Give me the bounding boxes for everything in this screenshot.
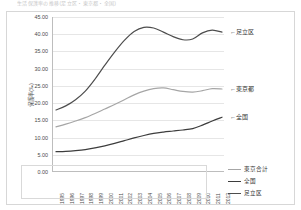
y-axis-title: 保護率(‰) — [26, 69, 36, 121]
y-axis-tick: 25.00 — [16, 82, 48, 90]
y-axis-tick: 40.00 — [16, 30, 48, 38]
legend-label: 全国 — [244, 177, 256, 185]
chart-title-cropped: 生活保護率の推移(足立区・東京都・全国) — [17, 0, 167, 7]
legend-label: 足立区 — [244, 189, 262, 197]
y-axis-tick: 10.00 — [16, 134, 48, 142]
y-axis-tick: 15.00 — [16, 116, 48, 124]
y-axis-tick: 20.00 — [16, 99, 48, 107]
series-line — [56, 88, 222, 127]
series-line — [56, 117, 222, 151]
y-axis-tick: 30.00 — [16, 65, 48, 73]
legend-color-swatch — [228, 181, 241, 182]
legend-row[interactable]: 東京合計 — [228, 163, 290, 175]
legend-inner-box — [21, 165, 207, 199]
series-callout: ←足立区 — [230, 28, 254, 36]
legend-label: 東京合計 — [244, 165, 268, 173]
legend-row[interactable]: 全国 — [228, 175, 290, 187]
legend-color-swatch — [228, 193, 241, 194]
plot-area — [52, 17, 224, 172]
series-lines — [53, 17, 225, 172]
series-callout: ←東京都 — [230, 85, 254, 93]
series-line — [56, 27, 222, 110]
legend-color-swatch — [228, 169, 241, 170]
chart-screenshot: 生活保護率の推移(足立区・東京都・全国) 保護率(‰) 45.0040.0035… — [0, 0, 301, 210]
y-axis-tick: 35.00 — [16, 47, 48, 55]
y-axis-tick: 45.00 — [16, 13, 48, 21]
legend-row[interactable]: 足立区 — [228, 187, 290, 199]
series-callout: ←全国 — [230, 113, 248, 121]
y-axis-tick: 5.00 — [16, 151, 48, 159]
legend: 東京合計全国足立区 — [228, 163, 290, 203]
